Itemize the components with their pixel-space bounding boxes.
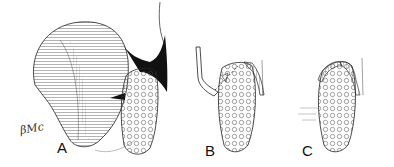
panel-c-drawing [298,58,363,152]
panel-label-c: C [302,143,313,158]
panel-label-a: A [57,140,67,155]
panel-b-drawing [196,47,264,152]
panel-label-b: B [205,143,215,158]
panel-a-drawing [33,2,167,154]
anatomical-figure: βMc A B C [0,0,394,167]
